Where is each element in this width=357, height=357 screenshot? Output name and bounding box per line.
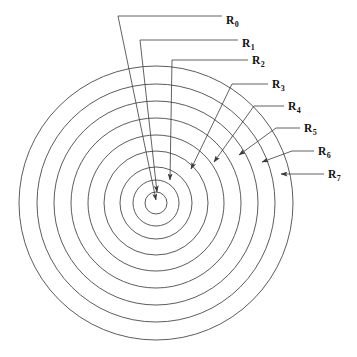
ring-2 — [120, 167, 192, 239]
ring-6 — [54, 101, 258, 305]
ring-1 — [133, 180, 179, 226]
pointer-arrow-r6 — [262, 151, 292, 162]
ring-8-outer — [19, 66, 293, 340]
labels-group: R0R1R2R3R4R5R6R7 — [226, 14, 341, 183]
radius-label-subscript: 2 — [261, 60, 265, 69]
pointer-arrow-r5 — [239, 128, 276, 155]
radius-label-r1: R1 — [242, 37, 255, 52]
radius-label-base: R — [242, 37, 251, 49]
radius-label-subscript: 0 — [235, 20, 239, 29]
pointer-arrow-r2 — [170, 60, 172, 180]
radius-label-subscript: 3 — [281, 84, 285, 93]
concentric-circles-diagram: R0R1R2R3R4R5R6R7 — [0, 0, 357, 357]
radius-label-base: R — [318, 145, 327, 157]
radius-label-base: R — [288, 100, 297, 112]
radius-label-r0: R0 — [226, 14, 239, 29]
ring-4 — [88, 135, 224, 271]
radius-label-r7: R7 — [328, 168, 341, 183]
ring-7 — [37, 84, 275, 322]
radius-label-subscript: 4 — [297, 106, 301, 115]
radius-label-base: R — [226, 14, 235, 26]
radius-label-base: R — [252, 54, 261, 66]
radius-label-base: R — [272, 78, 281, 90]
radius-label-r5: R5 — [304, 122, 317, 137]
ring-0-inner — [145, 192, 167, 214]
radius-label-subscript: 6 — [327, 151, 331, 160]
rings-group — [19, 66, 293, 340]
pointer-arrow-r4 — [214, 106, 254, 162]
pointer-arrow-r3 — [191, 84, 232, 169]
radius-label-base: R — [304, 122, 313, 134]
ring-5 — [71, 118, 241, 288]
radius-label-subscript: 5 — [313, 128, 317, 137]
radius-label-subscript: 1 — [251, 43, 255, 52]
radius-label-base: R — [328, 168, 337, 180]
radius-label-subscript: 7 — [337, 174, 341, 183]
figure-root: R0R1R2R3R4R5R6R7 — [0, 0, 357, 357]
radius-label-r4: R4 — [288, 100, 301, 115]
radius-label-r2: R2 — [252, 54, 265, 69]
radius-label-r6: R6 — [318, 145, 331, 160]
radius-label-r3: R3 — [272, 78, 285, 93]
